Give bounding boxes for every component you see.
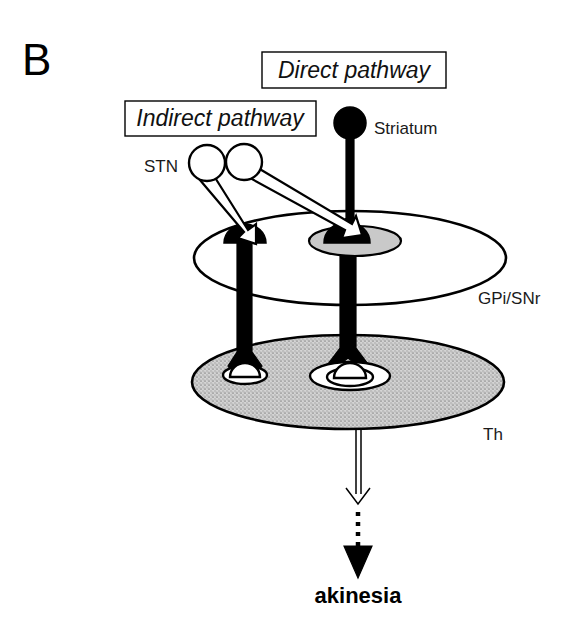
thalamic-output-fiber (346, 428, 370, 504)
stn-soma-right (226, 144, 262, 180)
gpi-snr-label: GPi/SNr (478, 289, 541, 308)
outcome-label: akinesia (315, 583, 403, 608)
indirect-pathway-box-group: Indirect pathway (125, 101, 316, 136)
stn-soma-left (189, 145, 225, 181)
direct-pathway-box-group: Direct pathway (262, 52, 446, 88)
thalamus-label: Th (483, 425, 503, 444)
indirect-pathway-label: Indirect pathway (136, 105, 305, 131)
outcome-arrow (344, 512, 372, 578)
stn-label: STN (144, 157, 178, 176)
figure-panel-b: B (0, 0, 579, 626)
outcome-arrow-head (344, 546, 372, 578)
direct-pathway-label: Direct pathway (278, 57, 432, 83)
striatum-soma (334, 107, 366, 139)
striatum-label: Striatum (374, 119, 437, 138)
panel-letter: B (22, 35, 51, 84)
diagram-canvas: B (0, 0, 579, 626)
thalamic-fiber-arrowhead (346, 488, 370, 504)
